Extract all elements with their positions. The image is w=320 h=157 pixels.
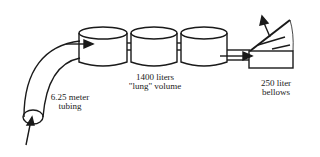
bellows: [249, 51, 293, 68]
inlet-arrow-head: [27, 117, 34, 125]
tubing-label: 6.25 meter tubing: [46, 93, 94, 111]
tubing-label-line2: tubing: [46, 102, 94, 111]
outlet-arrow: [264, 23, 270, 37]
cylinder-2: [131, 27, 177, 66]
lung-volume-label: 1400 liters "lung" volume: [125, 73, 185, 91]
flow-arrow-1-head: [84, 40, 93, 48]
cylinder-3: [181, 27, 227, 66]
lung-label-line2: "lung" volume: [125, 82, 185, 91]
bellows-label: 250 liter bellows: [252, 79, 300, 97]
bellows-label-line2: bellows: [252, 88, 300, 97]
outlet-arrow-head: [260, 16, 268, 25]
